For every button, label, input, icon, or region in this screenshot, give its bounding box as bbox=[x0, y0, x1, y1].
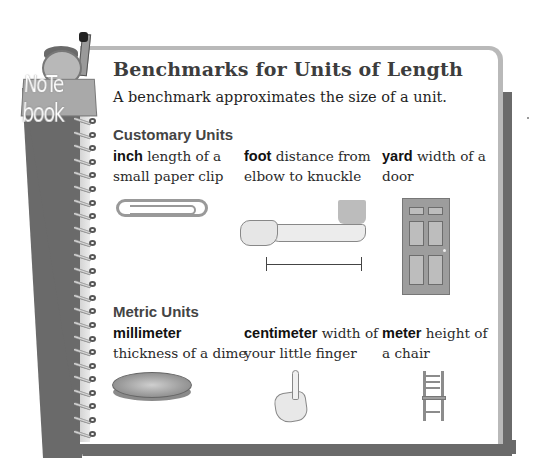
coil-ring bbox=[89, 295, 96, 301]
benchmark-meter: meter height of a chair bbox=[382, 323, 492, 363]
term-meter: meter bbox=[382, 325, 422, 341]
coil-ring bbox=[89, 159, 96, 165]
spiral-coil bbox=[74, 129, 100, 143]
spiral-coil bbox=[74, 156, 100, 170]
spiral-coil bbox=[74, 292, 100, 306]
coil-ring bbox=[89, 186, 96, 192]
spiral-coil bbox=[74, 333, 100, 347]
coil-ring bbox=[89, 336, 96, 342]
dime-icon bbox=[112, 372, 192, 398]
page-title: Benchmarks for Units of Length bbox=[113, 58, 463, 80]
coil-ring bbox=[89, 322, 96, 328]
spiral-coil bbox=[74, 169, 100, 183]
spiral-coil bbox=[74, 224, 100, 238]
spiral-coil bbox=[74, 210, 100, 224]
door-icon bbox=[402, 198, 450, 295]
coil-ring bbox=[89, 200, 96, 206]
description-millimeter: thickness of a dime bbox=[113, 345, 246, 361]
finger-icon bbox=[273, 370, 313, 432]
spiral-coil bbox=[74, 346, 100, 360]
benchmark-inch: inch length of a small paper clip bbox=[113, 146, 253, 186]
coil-ring bbox=[89, 363, 96, 369]
sleeve bbox=[338, 200, 366, 224]
coil-ring bbox=[89, 268, 96, 274]
notebook-mascot: NoTe book bbox=[20, 30, 100, 120]
coil-ring bbox=[89, 213, 96, 219]
coil-ring bbox=[89, 403, 96, 409]
term-yard: yard bbox=[382, 148, 413, 164]
pencil-eraser bbox=[79, 32, 88, 42]
measure-line bbox=[266, 264, 362, 265]
forearm-icon bbox=[240, 198, 366, 278]
term-millimeter: millimeter bbox=[113, 325, 182, 341]
term-foot: foot bbox=[244, 148, 271, 164]
coil-ring bbox=[89, 390, 96, 396]
benchmark-centimeter: centimeter width of your little finger bbox=[244, 323, 379, 363]
benchmark-yard: yard width of a door bbox=[382, 146, 492, 186]
measure-tick-right bbox=[361, 257, 362, 271]
coil-ring bbox=[89, 240, 96, 246]
spiral-coil bbox=[74, 265, 100, 279]
hand bbox=[273, 390, 309, 424]
section-heading-metric: Metric Units bbox=[113, 303, 199, 320]
term-inch: inch bbox=[113, 148, 143, 164]
spiral-coil bbox=[74, 197, 100, 211]
spiral-coil bbox=[74, 428, 100, 442]
chair-icon bbox=[422, 371, 446, 421]
spiral-coil bbox=[74, 237, 100, 251]
benchmark-foot: foot distance from elbow to knuckle bbox=[244, 146, 384, 186]
spiral-coil bbox=[74, 251, 100, 265]
spiral-binding bbox=[74, 115, 100, 441]
spiral-coil bbox=[74, 387, 100, 401]
little-finger bbox=[292, 370, 299, 400]
coil-ring bbox=[89, 281, 96, 287]
coil-ring bbox=[89, 254, 96, 260]
notebook-badge-label: NoTe book bbox=[21, 69, 97, 128]
coil-ring bbox=[89, 172, 96, 178]
page-subtitle: A benchmark approximates the size of a u… bbox=[113, 89, 447, 105]
coil-ring bbox=[89, 132, 96, 138]
coil-ring bbox=[89, 349, 96, 355]
section-heading-customary: Customary Units bbox=[113, 126, 233, 143]
coil-ring bbox=[89, 376, 96, 382]
spiral-coil bbox=[74, 414, 100, 428]
coil-ring bbox=[89, 308, 96, 314]
spiral-coil bbox=[74, 142, 100, 156]
fist-icon bbox=[240, 220, 278, 246]
notebook-badge: NoTe book bbox=[21, 79, 98, 117]
door-knob bbox=[443, 249, 446, 252]
coil-ring bbox=[89, 431, 96, 437]
spiral-coil bbox=[74, 400, 100, 414]
paper-clip-icon bbox=[116, 196, 210, 222]
coil-ring bbox=[89, 145, 96, 151]
spiral-coil bbox=[74, 305, 100, 319]
stray-mark bbox=[527, 117, 529, 119]
coil-ring bbox=[89, 227, 96, 233]
coil-ring bbox=[89, 417, 96, 423]
forearm bbox=[268, 224, 366, 242]
term-centimeter: centimeter bbox=[244, 325, 317, 341]
spiral-coil bbox=[74, 373, 100, 387]
spiral-coil bbox=[74, 278, 100, 292]
spiral-coil bbox=[74, 183, 100, 197]
spiral-coil bbox=[74, 319, 100, 333]
spiral-coil bbox=[74, 360, 100, 374]
benchmark-millimeter: millimeter thickness of a dime bbox=[113, 323, 248, 363]
